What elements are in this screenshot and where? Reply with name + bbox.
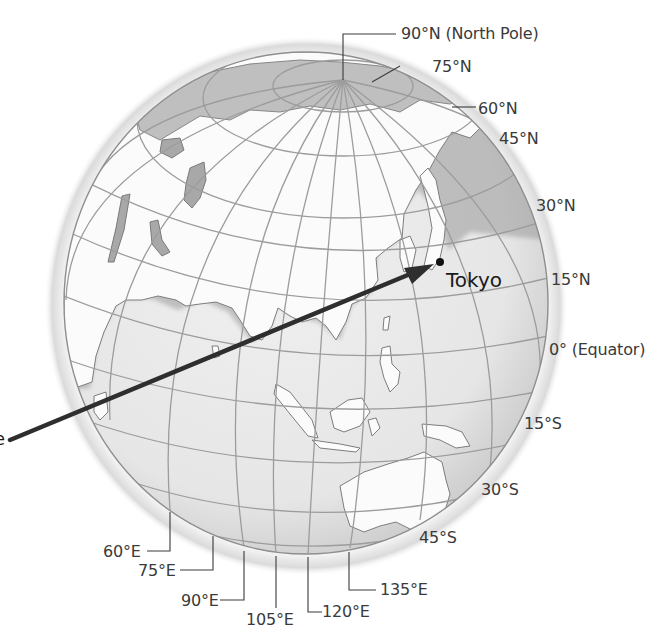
tokyo-label: Tokyo bbox=[446, 270, 502, 290]
globe-diagram: e Tokyo 90°N (North Pole) 75°N 60°N 45°N… bbox=[0, 0, 670, 637]
tokyo-marker-dot bbox=[436, 258, 444, 266]
label-105e: 105°E bbox=[246, 612, 294, 628]
label-135e: 135°E bbox=[380, 582, 428, 598]
label-60e: 60°E bbox=[103, 544, 141, 560]
label-75e: 75°E bbox=[138, 563, 176, 579]
label-90n-north-pole: 90°N (North Pole) bbox=[401, 26, 539, 42]
label-90e: 90°E bbox=[181, 593, 219, 609]
label-30n: 30°N bbox=[536, 198, 576, 214]
label-equator: 0° (Equator) bbox=[549, 342, 645, 358]
label-75n: 75°N bbox=[432, 59, 472, 75]
label-15n: 15°N bbox=[551, 272, 591, 288]
globe-graphic bbox=[0, 0, 670, 637]
label-15s: 15°S bbox=[524, 416, 562, 432]
label-30s: 30°S bbox=[481, 482, 519, 498]
arrow-source-text: e bbox=[0, 430, 5, 448]
label-60n: 60°N bbox=[478, 101, 518, 117]
label-45n: 45°N bbox=[499, 131, 539, 147]
label-45s: 45°S bbox=[419, 530, 457, 546]
label-120e: 120°E bbox=[322, 604, 370, 620]
